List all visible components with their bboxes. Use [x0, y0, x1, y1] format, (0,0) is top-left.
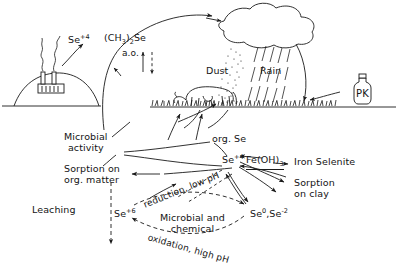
- microbial-activity-line-1: Microbial: [64, 132, 108, 143]
- line-microbial-up: [112, 122, 130, 137]
- label-microbial-activity: Microbial activity: [64, 132, 108, 153]
- line-surface-to-soil-b: [208, 110, 228, 128]
- mechanism-line-1: Microbial and: [160, 213, 225, 224]
- label-leaching: Leaching: [32, 205, 76, 216]
- se4-soil-charge: +4: [234, 153, 244, 161]
- label-reduced-se-species: Se0,Se-2: [250, 206, 288, 220]
- arrow-soil-to-plant-2: [196, 114, 202, 140]
- arrow-se0-to-se4: [226, 174, 246, 204]
- smoke-plume-right: [54, 36, 60, 71]
- feoh3-sub: 3: [279, 160, 283, 168]
- smoke-plume-left: [41, 38, 43, 71]
- feoh3-formula: Fe(OH): [246, 154, 279, 165]
- se0-symbol: Se: [250, 208, 262, 219]
- label-dust: Dust: [206, 66, 228, 77]
- label-se6: Se+6: [114, 206, 136, 220]
- arrow-se4-to-se0: [228, 172, 248, 202]
- label-org-se: org. Se: [212, 134, 246, 145]
- label-se4-soil: Se+4: [222, 152, 244, 166]
- label-rain: Rain: [260, 66, 281, 77]
- line-microbial-to-se4: [124, 155, 222, 166]
- arrow-volatile-emission: [114, 68, 121, 76]
- arrow-wet-deposition: [296, 44, 306, 101]
- sorption-org-line-2: org. matter: [64, 175, 120, 186]
- se4-soil-symbol: Se: [222, 154, 234, 165]
- sorption-clay-line-2: on clay: [294, 189, 335, 200]
- line-se4-to-sorption-org: [164, 168, 232, 174]
- label-iron-selenite: Iron Selenite: [294, 157, 355, 168]
- label-sorption-on-clay: Sorption on clay: [294, 178, 335, 199]
- arrow-into-cloud: [206, 18, 221, 21]
- label-dimethyl-selenide: (CH3)2Se: [104, 33, 146, 47]
- label-among-others: a.o.: [122, 48, 139, 59]
- label-sorption-org-matter: Sorption on org. matter: [64, 164, 120, 185]
- line-microbial-to-orgse: [124, 142, 210, 152]
- se6-charge: +6: [126, 207, 136, 215]
- factory: [38, 72, 64, 93]
- cloud: [219, 3, 314, 48]
- sorption-org-line-1: Sorption on: [64, 164, 120, 175]
- dms-part-3: Se: [134, 32, 146, 43]
- dms-part-1: (CH: [104, 32, 122, 43]
- arrow-soil-to-plant-1: [168, 114, 180, 140]
- arrow-se4-to-sorption-clay-2: [239, 167, 276, 192]
- microbial-activity-line-2: activity: [64, 143, 108, 154]
- label-se4-emission: Se+4: [68, 32, 90, 46]
- arrow-fertilizer-input: [310, 92, 340, 100]
- label-pk-fertilizer: PK: [356, 89, 369, 100]
- grass-band: [152, 100, 336, 106]
- se6-symbol: Se: [114, 208, 126, 219]
- label-transformation-mechanism: Microbial and chemical: [160, 213, 225, 234]
- se4-emission-charge: +4: [80, 33, 90, 41]
- label-iron-hydroxide: Fe(OH)3: [246, 155, 284, 170]
- se-minus2-charge: -2: [281, 207, 287, 215]
- se4-emission-symbol: Se: [68, 34, 80, 45]
- sorption-clay-line-1: Sorption: [294, 178, 335, 189]
- arrow-stack-to-se4: [62, 44, 83, 66]
- se-minus2-symbol: Se: [269, 208, 281, 219]
- line-surface-to-soil-a: [184, 110, 200, 128]
- selenium-cycle-figure: Se+4 (CH3)2Se a.o. Dust Rain PK Microbia…: [0, 0, 398, 269]
- mechanism-line-2: chemical: [160, 224, 225, 235]
